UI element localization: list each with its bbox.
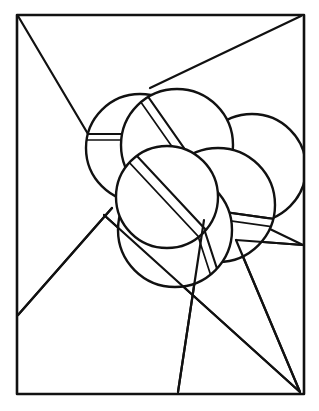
line-art-illustration (0, 0, 319, 411)
artboard (0, 0, 319, 411)
